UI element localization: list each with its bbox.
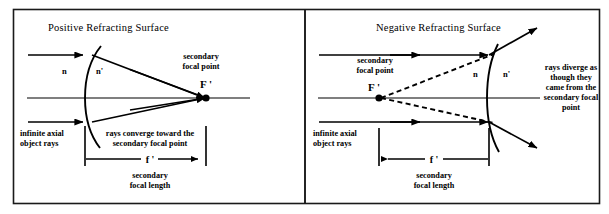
focal-length-symbol: f ' bbox=[146, 154, 155, 165]
index-label-nprime-left: n' bbox=[96, 66, 103, 76]
object-rays-caption-line2: object rays bbox=[20, 139, 58, 148]
focal-length-symbol: f ' bbox=[430, 154, 439, 165]
focal-point-caption-line2: focal point bbox=[356, 66, 393, 75]
focal-point-caption-line2: focal point bbox=[182, 62, 219, 71]
secondary-focal-point-dot bbox=[375, 94, 382, 101]
diagram-canvas: Positive Refracting Surface n n' seconda… bbox=[0, 0, 609, 214]
virtual-ray-lower-dashed bbox=[381, 98, 494, 123]
focal-length-caption-line1: secondary bbox=[416, 171, 452, 180]
focal-point-caption-line1: secondary bbox=[183, 52, 219, 61]
secondary-focal-point-dot bbox=[202, 94, 209, 101]
panel-positive: Positive Refracting Surface n n' seconda… bbox=[20, 22, 250, 190]
focal-length-caption-line2: focal length bbox=[130, 181, 171, 190]
behavior-caption-line5: point bbox=[562, 103, 580, 112]
refracted-ray-lower-tail bbox=[130, 98, 206, 110]
refracted-ray-upper-tail bbox=[130, 70, 206, 99]
object-rays-caption-line1: infinite axial bbox=[313, 129, 358, 138]
refracting-surface-figure: Positive Refracting Surface n n' seconda… bbox=[0, 0, 609, 214]
index-label-nprime-right-panel: n' bbox=[503, 69, 510, 79]
object-rays-caption-line2: object rays bbox=[313, 139, 351, 148]
behavior-caption-line2: secondary focal point bbox=[113, 139, 188, 148]
focal-point-symbol: F ' bbox=[200, 78, 212, 90]
focal-point-caption-line1: secondary bbox=[357, 56, 393, 65]
behavior-caption-line2: though they bbox=[550, 73, 593, 82]
behavior-caption-line3: came from the bbox=[546, 83, 597, 92]
panel-title-positive: Positive Refracting Surface bbox=[48, 22, 169, 33]
focal-length-caption-line2: focal length bbox=[414, 181, 455, 190]
focal-length-caption-line1: secondary bbox=[132, 171, 168, 180]
behavior-caption-line4: secondary focal bbox=[544, 93, 599, 102]
focal-point-symbol: F ' bbox=[368, 81, 380, 93]
index-label-n-right-panel: n bbox=[473, 69, 478, 79]
behavior-caption-line1: rays diverge as bbox=[545, 63, 597, 72]
figure-border bbox=[14, 10, 600, 204]
panel-title-negative: Negative Refracting Surface bbox=[376, 22, 501, 33]
panel-negative: Negative Refracting Surface n n' s bbox=[313, 22, 599, 190]
refracted-ray-lower bbox=[489, 122, 537, 148]
index-label-n-left: n bbox=[62, 66, 67, 76]
refracting-surface-curve bbox=[85, 46, 101, 148]
behavior-caption-line1: rays converge toward the bbox=[106, 129, 195, 138]
object-rays-caption-line1: infinite axial bbox=[20, 129, 65, 138]
